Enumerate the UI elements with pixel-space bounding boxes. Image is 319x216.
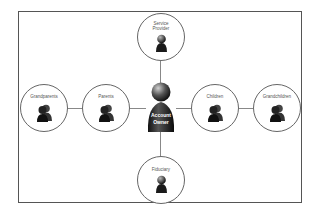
single-person-icon — [155, 34, 168, 52]
connector-left-outer — [68, 108, 82, 109]
center-label: Owner — [145, 119, 177, 125]
connector-right-inner — [176, 108, 191, 109]
node-parents: Parents — [82, 84, 130, 132]
node-label: Grandparents — [21, 94, 67, 99]
node-label: Grandchildren — [254, 94, 300, 99]
center-account-owner: Account Owner — [145, 82, 177, 132]
node-grandparents: Grandparents — [20, 84, 68, 132]
node-label: Children — [192, 94, 238, 99]
node-service-provider: Service Provider — [137, 13, 185, 61]
group-person-icon — [207, 104, 224, 122]
node-label: Provider — [138, 26, 184, 31]
center-label: Account — [145, 112, 177, 118]
group-person-icon — [269, 104, 286, 122]
node-fiduciary: Fiduciary — [137, 156, 185, 204]
node-grandchildren: Grandchildren — [253, 84, 301, 132]
connector-bottom — [160, 130, 161, 157]
connector-right-outer — [239, 108, 253, 109]
group-person-icon — [36, 104, 53, 122]
single-person-icon — [155, 175, 168, 193]
node-label: Parents — [83, 94, 129, 99]
connector-left-inner — [130, 108, 146, 109]
group-person-icon — [98, 104, 115, 122]
node-children: Children — [191, 84, 239, 132]
node-label: Fiduciary — [138, 167, 184, 172]
